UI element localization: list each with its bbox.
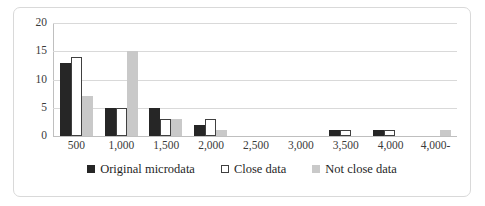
legend-item[interactable]: Original microdata [87,163,195,176]
bar [149,108,160,136]
chart-legend: Original microdataClose dataNot close da… [14,163,470,176]
bar [340,130,351,136]
x-axis-tick-label: 1,500 [144,140,189,152]
plot-area: 05101520 [53,23,457,137]
legend-swatch-icon [87,165,95,173]
bar [82,96,93,136]
bar [216,130,227,136]
legend-label: Original microdata [100,163,195,176]
bar-group [144,23,189,136]
bars-layer [54,23,457,136]
y-axis-tick-label: 10 [36,74,48,86]
y-axis-tick-label: 20 [36,17,48,29]
legend-label: Close data [234,163,286,176]
bar [71,57,82,136]
bar [60,63,71,136]
bar-group [188,23,233,136]
x-axis-tick-label: 2,000 [189,140,234,152]
y-axis-tick-label: 15 [36,46,48,58]
y-axis-tick-label: 5 [41,102,47,114]
bar-group [367,23,412,136]
legend-item[interactable]: Close data [221,163,286,176]
x-axis-tick-label: 4,000- [413,140,458,152]
x-axis-tick-label: 4,000 [368,140,413,152]
bar [127,51,138,136]
x-axis-baseline [53,136,457,137]
x-axis-tick-label: 3,500 [323,140,368,152]
bar [160,119,171,136]
bar-group [54,23,99,136]
legend-label: Not close data [325,163,397,176]
x-axis-tick-label: 500 [54,140,99,152]
bar [329,130,340,136]
x-axis-tick-label: 2,500 [234,140,279,152]
bar [194,125,205,136]
bar-group [99,23,144,136]
bar-group [278,23,323,136]
legend-item[interactable]: Not close data [312,163,397,176]
chart-frame: 05101520 5001,0001,5002,0002,5003,0003,5… [13,7,471,197]
bar-group [233,23,278,136]
x-axis-tick-label: 1,000 [99,140,144,152]
bar-group [323,23,368,136]
bar [373,130,384,136]
y-axis-tick-label: 0 [41,130,47,142]
legend-swatch-icon [312,165,320,173]
x-axis-tick-label: 3,000 [278,140,323,152]
bar [171,119,182,136]
bar [384,130,395,136]
bar [105,108,116,136]
x-axis-tick-labels: 5001,0001,5002,0002,5003,0003,5004,0004,… [54,140,458,152]
bar [205,119,216,136]
bar-group [412,23,457,136]
bar [116,108,127,136]
legend-swatch-icon [221,165,229,173]
bar [440,130,451,136]
